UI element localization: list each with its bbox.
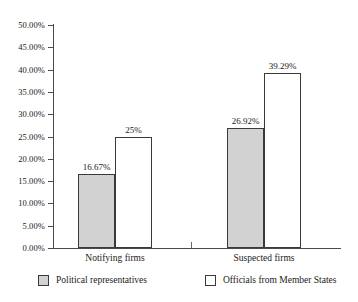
x-axis-category-label: Suspected firms [234, 252, 295, 264]
legend-swatch-icon [38, 275, 49, 286]
bar-value-label: 26.92% [232, 116, 260, 126]
bar-chart-figure: 50.00%45.00%40.00%35.00%30.00%25.00%20.0… [0, 0, 358, 302]
x-axis-line [53, 248, 341, 249]
bar [264, 73, 301, 248]
legend-item[interactable]: Political representatives [38, 275, 147, 286]
y-axis-tick-label: 45.00% [0, 43, 45, 52]
y-axis-tick-label: 40.00% [0, 66, 45, 75]
bar-value-label: 16.67% [83, 162, 111, 172]
legend-item[interactable]: Officials from Member States [205, 275, 337, 286]
bar [227, 128, 264, 248]
legend-swatch-icon [205, 275, 216, 286]
bar-value-label: 25% [125, 125, 142, 135]
bar [115, 137, 152, 249]
y-axis-tick-label: 25.00% [0, 133, 45, 142]
y-axis-tick-label: 0.00% [0, 244, 45, 253]
y-axis-tick-label: 35.00% [0, 88, 45, 97]
legend-item-label: Officials from Member States [223, 275, 337, 286]
x-axis-category-label: Notifying firms [85, 252, 144, 264]
legend-item-label: Political representatives [56, 275, 147, 286]
caption-remnant [8, 295, 188, 300]
bar-value-label: 39.29% [269, 61, 297, 71]
bar [78, 174, 115, 248]
y-axis-tick [48, 248, 53, 249]
y-axis-tick-label: 50.00% [0, 21, 45, 30]
chart-legend: Political representativesOfficials from … [0, 272, 358, 292]
y-axis-tick-label: 20.00% [0, 155, 45, 164]
y-axis-tick-label: 15.00% [0, 177, 45, 186]
plot-area: 16.67%25%26.92%39.29% [53, 25, 340, 248]
y-axis-tick-label: 30.00% [0, 110, 45, 119]
y-axis-tick-label: 5.00% [0, 222, 45, 231]
y-axis-tick-label: 10.00% [0, 199, 45, 208]
